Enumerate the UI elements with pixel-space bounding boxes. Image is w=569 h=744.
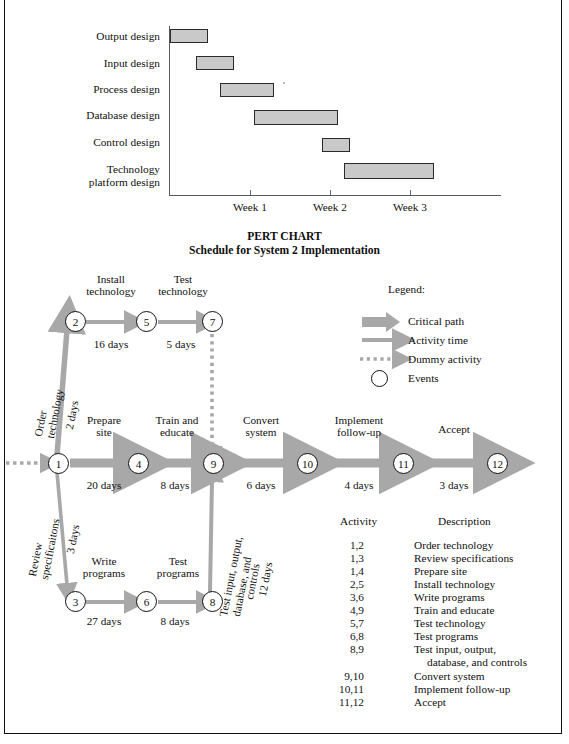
pert-edge-label-test-technology-line1: Test	[148, 273, 218, 285]
pert-edge-label-write-programs-line1: Write	[69, 555, 139, 567]
table-row-description-1: Review specifications	[414, 552, 513, 564]
table-row-description-11: Accept	[414, 696, 446, 708]
gantt-row-label-control-design: Control design	[30, 136, 160, 149]
pert-edge-label-test-programs-line1: Test	[140, 555, 216, 567]
pert-edge-days-5-7: 5 days	[146, 338, 216, 350]
pert-edge-days-1-4: 20 days	[69, 479, 139, 491]
pert-edge-label-test-programs-line2: programs	[140, 567, 216, 579]
table-row-activity-5: 4,9	[324, 604, 364, 616]
pert-edge-label-install-technology-line2: technology	[76, 285, 146, 297]
gantt-bar-control-design	[322, 138, 350, 152]
table-row-activity-2: 1,4	[324, 565, 364, 577]
gantt-bar-database-design	[254, 110, 338, 125]
pert-node-6[interactable]: 6	[136, 591, 157, 612]
gantt-row-label-output-design: Output design	[30, 30, 160, 43]
gantt-xtick-label-week-2: Week 2	[300, 201, 360, 213]
pert-edge-days-4-9: 8 days	[140, 479, 210, 491]
pert-edge-label-implement-follow-up-line1: Implement	[318, 414, 400, 426]
pert-node-11[interactable]: 11	[393, 453, 414, 474]
pert-edge-days-9-10: 6 days	[226, 479, 296, 491]
pert-node-9[interactable]: 9	[203, 453, 224, 474]
table-header-activity: Activity	[340, 515, 377, 527]
table-header-description: Description	[438, 515, 491, 527]
pert-edge-label-write-programs-line2: programs	[69, 567, 139, 579]
gantt-tick-week-1	[250, 190, 251, 195]
table-row-activity-6: 5,7	[324, 617, 364, 629]
table-row-activity-8: 8,9	[324, 643, 364, 655]
pert-node-5[interactable]: 5	[136, 311, 157, 332]
table-row-activity-9: 9,10	[324, 670, 364, 682]
pert-node-1[interactable]: 1	[48, 453, 69, 474]
gantt-bar-technology-platform-design	[344, 163, 434, 179]
table-row-description-10: Implement follow-up	[414, 683, 510, 695]
gantt-row-label-technology-platform-design-line2: platform design	[30, 176, 160, 189]
gantt-xtick-label-week-3: Week 3	[380, 201, 440, 213]
gantt-tick-week-2	[330, 190, 331, 195]
pert-edge-label-train-and-educate-line1: Train and	[138, 414, 216, 426]
gantt-row-label-technology-platform-design-line1: Technology	[30, 163, 160, 176]
table-row-description-6: Test technology	[414, 617, 486, 629]
table-row-activity-10: 10,11	[324, 683, 364, 695]
table-row-description-9: Convert system	[414, 670, 485, 682]
table-row-description-4: Write programs	[414, 591, 485, 603]
gantt-tick-week-3	[410, 190, 411, 195]
gantt-chart: Schedule for System 2 Implementation Out…	[0, 0, 569, 222]
pert-edge-days-6-8: 8 days	[140, 615, 210, 627]
pert-edge-days-11-12: 3 days	[419, 479, 489, 491]
table-row-activity-0: 1,2	[324, 539, 364, 551]
pert-edge-label-accept: Accept	[419, 423, 489, 435]
legend-label-events: Events	[408, 372, 439, 384]
pert-edge-label-prepare-site-line2: site	[69, 426, 139, 438]
legend-thick-arrow-icon	[362, 312, 400, 332]
pert-node-3[interactable]: 3	[65, 591, 86, 612]
pert-edge-label-convert-system-line2: system	[226, 426, 296, 438]
table-row-description-2: Prepare site	[414, 565, 467, 577]
table-row-activity-7: 6,8	[324, 630, 364, 642]
gantt-row-label-process-design: Process design	[30, 83, 160, 96]
table-row-description-7: Test programs	[414, 630, 478, 642]
legend-label-dummy-activity: Dummy activity	[408, 353, 482, 365]
pert-edge-label-train-and-educate-line2: educate	[138, 426, 216, 438]
gantt-artifact-speck	[283, 82, 285, 84]
gantt-xtick-label-week-1: Week 1	[220, 201, 280, 213]
table-row-activity-4: 3,6	[324, 591, 364, 603]
table-row-description-0: Order technology	[414, 539, 493, 551]
pert-edge-label-test-technology-line2: technology	[148, 285, 218, 297]
gantt-row-label-input-design: Input design	[30, 57, 160, 70]
gantt-y-axis	[169, 26, 170, 196]
table-row-description-8: Test input, output,	[414, 643, 496, 655]
legend-circle-icon	[371, 370, 388, 387]
table-row-activity-11: 11,12	[324, 696, 364, 708]
gantt-bar-process-design	[220, 83, 274, 97]
gantt-bar-input-design	[196, 56, 234, 70]
pert-edge-label-prepare-site-line1: Prepare	[69, 414, 139, 426]
gantt-bar-output-design	[170, 29, 208, 43]
pert-node-7[interactable]: 7	[202, 311, 223, 332]
pert-node-12[interactable]: 12	[487, 453, 508, 474]
table-row-activity-1: 1,3	[324, 552, 364, 564]
legend-label-activity-time: Activity time	[408, 334, 468, 346]
table-row-description-3: Install technology	[414, 578, 495, 590]
pert-edge-label-implement-follow-up-line2: follow-up	[318, 426, 400, 438]
pert-node-10[interactable]: 10	[297, 453, 318, 474]
gantt-x-axis	[169, 195, 501, 196]
pert-node-2[interactable]: 2	[65, 311, 86, 332]
pert-edge-label-install-technology-line1: Install	[76, 273, 146, 285]
legend-title: Legend:	[388, 283, 425, 295]
pert-node-4[interactable]: 4	[128, 453, 149, 474]
table-row-activity-3: 2,5	[324, 578, 364, 590]
pert-edge-days-3-6: 27 days	[69, 615, 139, 627]
legend-label-critical-path: Critical path	[408, 315, 464, 327]
table-row-description-8-cont: database, and controls	[427, 656, 527, 668]
pert-edge-days-10-11: 4 days	[324, 479, 394, 491]
pert-edge-days-2-5: 16 days	[76, 338, 146, 350]
table-row-description-5: Train and educate	[414, 604, 495, 616]
pert-edge-label-convert-system-line1: Convert	[226, 414, 296, 426]
gantt-row-label-database-design: Database design	[30, 109, 160, 122]
pert-node-8[interactable]: 8	[202, 591, 223, 612]
